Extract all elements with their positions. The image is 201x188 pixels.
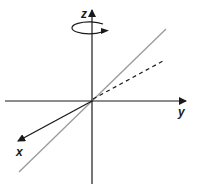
coordinate-diagram: z y x [0, 0, 201, 188]
rotation-arrow-icon [72, 22, 109, 34]
x-axis-label: x [15, 145, 24, 159]
x-axis [18, 101, 92, 141]
z-axis-label: z [80, 7, 87, 21]
y-axis-label: y [177, 105, 186, 119]
